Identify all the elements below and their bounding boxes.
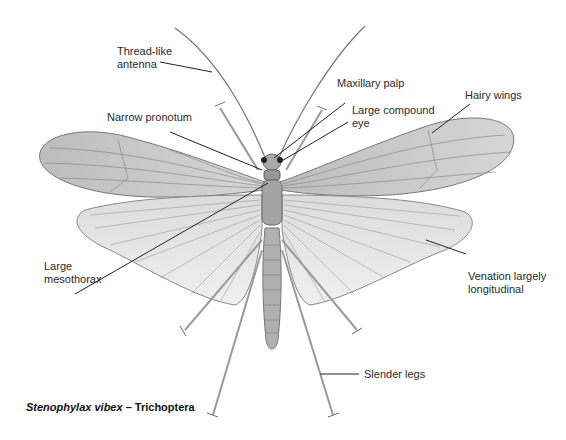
caption-separator: – [123, 401, 135, 413]
diagram-canvas: Thread-like antenna Maxillary palp Large… [0, 0, 566, 440]
caption-order: Trichoptera [135, 401, 195, 413]
antennae [175, 26, 365, 160]
label-compound-eye: Large compound eye [352, 104, 435, 130]
caption-species: Stenophylax vibex [26, 401, 123, 413]
label-antenna: Thread-like antenna [117, 45, 172, 71]
label-venation: Venation largely longitudinal [468, 270, 546, 296]
label-mesothorax: Large mesothorax [44, 260, 101, 286]
label-maxillary-palp: Maxillary palp [337, 77, 404, 90]
label-hairy-wings: Hairy wings [465, 89, 522, 102]
caddisfly-illustration [0, 0, 566, 440]
figure-caption: Stenophylax vibex – Trichoptera [26, 401, 195, 413]
left-forewing [40, 132, 265, 197]
label-pronotum: Narrow pronotum [107, 111, 192, 124]
body [261, 154, 283, 349]
left-hindwing [77, 195, 262, 305]
label-legs: Slender legs [364, 368, 425, 381]
